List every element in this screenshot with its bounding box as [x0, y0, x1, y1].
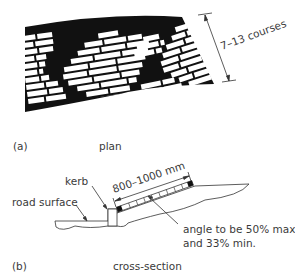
kerb-leader: [92, 186, 106, 207]
plan-caption: plan: [99, 140, 122, 152]
kerb-block: [108, 209, 117, 226]
road-surface-label: road surface: [12, 196, 78, 208]
kerb-label: kerb: [65, 175, 88, 187]
part-a-letter: (a): [13, 140, 28, 152]
courses-label: 7–13 courses: [219, 17, 288, 52]
kerb-arrowhead: [103, 205, 107, 210]
cross-section-caption: cross-section: [113, 260, 182, 272]
plan-view: 7–13 courses (a) plan: [13, 13, 288, 152]
angle-label-line1: angle to be 50% max.: [183, 223, 295, 235]
angle-label-line2: and 33% min.: [183, 237, 256, 249]
cross-section-view: 800–1000 mm kerb road surface angle to b…: [12, 159, 295, 272]
part-b-letter: (b): [12, 260, 27, 272]
diagram-canvas: 7–13 courses (a) plan: [0, 0, 295, 278]
road-arrowhead: [83, 217, 87, 222]
